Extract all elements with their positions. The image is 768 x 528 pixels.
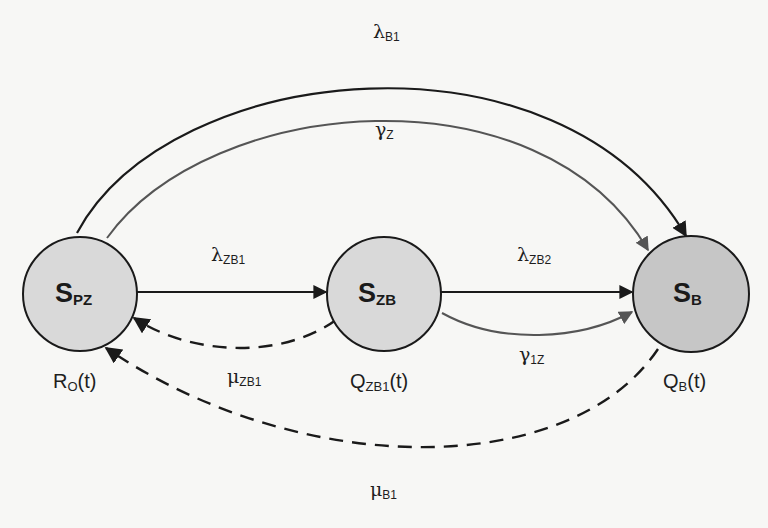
gamma-z-sub: Z — [386, 128, 393, 142]
func-qb-arg: (t) — [687, 370, 706, 392]
edge-mu-zb1 — [134, 318, 336, 348]
gamma-z-symbol: γ — [375, 118, 386, 140]
lambda-b1-sub: B1 — [385, 30, 400, 44]
node-s-zb-main: S — [358, 278, 376, 308]
edge-label-gamma-1z: γ1Z — [519, 345, 544, 366]
lambda-zb2-symbol: λ — [517, 243, 529, 265]
func-qb-main: Q — [663, 370, 679, 392]
edge-label-mu-zb1: μZB1 — [227, 367, 261, 388]
node-s-pz-sub: PZ — [73, 291, 92, 308]
gamma-1z-symbol: γ — [519, 343, 530, 365]
mu-zb1-sub: ZB1 — [239, 375, 261, 389]
edge-lambda-b1 — [77, 88, 686, 236]
node-s-zb-function: QZB1(t) — [350, 371, 408, 393]
diagram-graphics — [0, 0, 768, 528]
state-transition-diagram: SPZ SZB SB RO(t) QZB1(t) QB(t) λB1 γZ λZ… — [0, 0, 768, 528]
node-s-b-main: S — [673, 278, 691, 308]
func-r-sub: O — [67, 379, 77, 394]
edge-label-lambda-zb1: λZB1 — [211, 245, 245, 266]
edge-label-lambda-b1: λB1 — [373, 22, 400, 43]
node-s-pz-label: SPZ — [55, 280, 92, 307]
node-s-pz-function: RO(t) — [53, 371, 96, 393]
node-s-b-label: SB — [673, 280, 702, 307]
lambda-b1-symbol: λ — [373, 20, 385, 42]
edge-label-mu-b1: μB1 — [370, 480, 397, 501]
func-qzb1-main: Q — [350, 370, 366, 392]
node-s-b-sub: B — [691, 291, 702, 308]
func-qzb1-arg: (t) — [389, 370, 408, 392]
edge-mu-b1 — [106, 348, 658, 447]
mu-zb1-symbol: μ — [227, 365, 239, 387]
func-r-arg: (t) — [78, 370, 97, 392]
func-qb-sub: B — [679, 379, 688, 394]
node-s-zb-sub: ZB — [376, 291, 396, 308]
func-r-main: R — [53, 370, 67, 392]
edge-gamma-1z — [442, 312, 632, 335]
lambda-zb1-symbol: λ — [211, 243, 223, 265]
lambda-zb1-sub: ZB1 — [223, 253, 245, 267]
node-s-zb-label: SZB — [358, 280, 396, 307]
lambda-zb2-sub: ZB2 — [529, 253, 551, 267]
node-s-b-function: QB(t) — [663, 371, 706, 393]
func-qzb1-sub: ZB1 — [366, 379, 390, 394]
edge-label-gamma-z: γZ — [375, 120, 394, 141]
mu-b1-symbol: μ — [370, 478, 382, 500]
edge-label-lambda-zb2: λZB2 — [517, 245, 551, 266]
node-s-pz-main: S — [55, 278, 73, 308]
gamma-1z-sub: 1Z — [530, 353, 544, 367]
mu-b1-sub: B1 — [382, 488, 397, 502]
